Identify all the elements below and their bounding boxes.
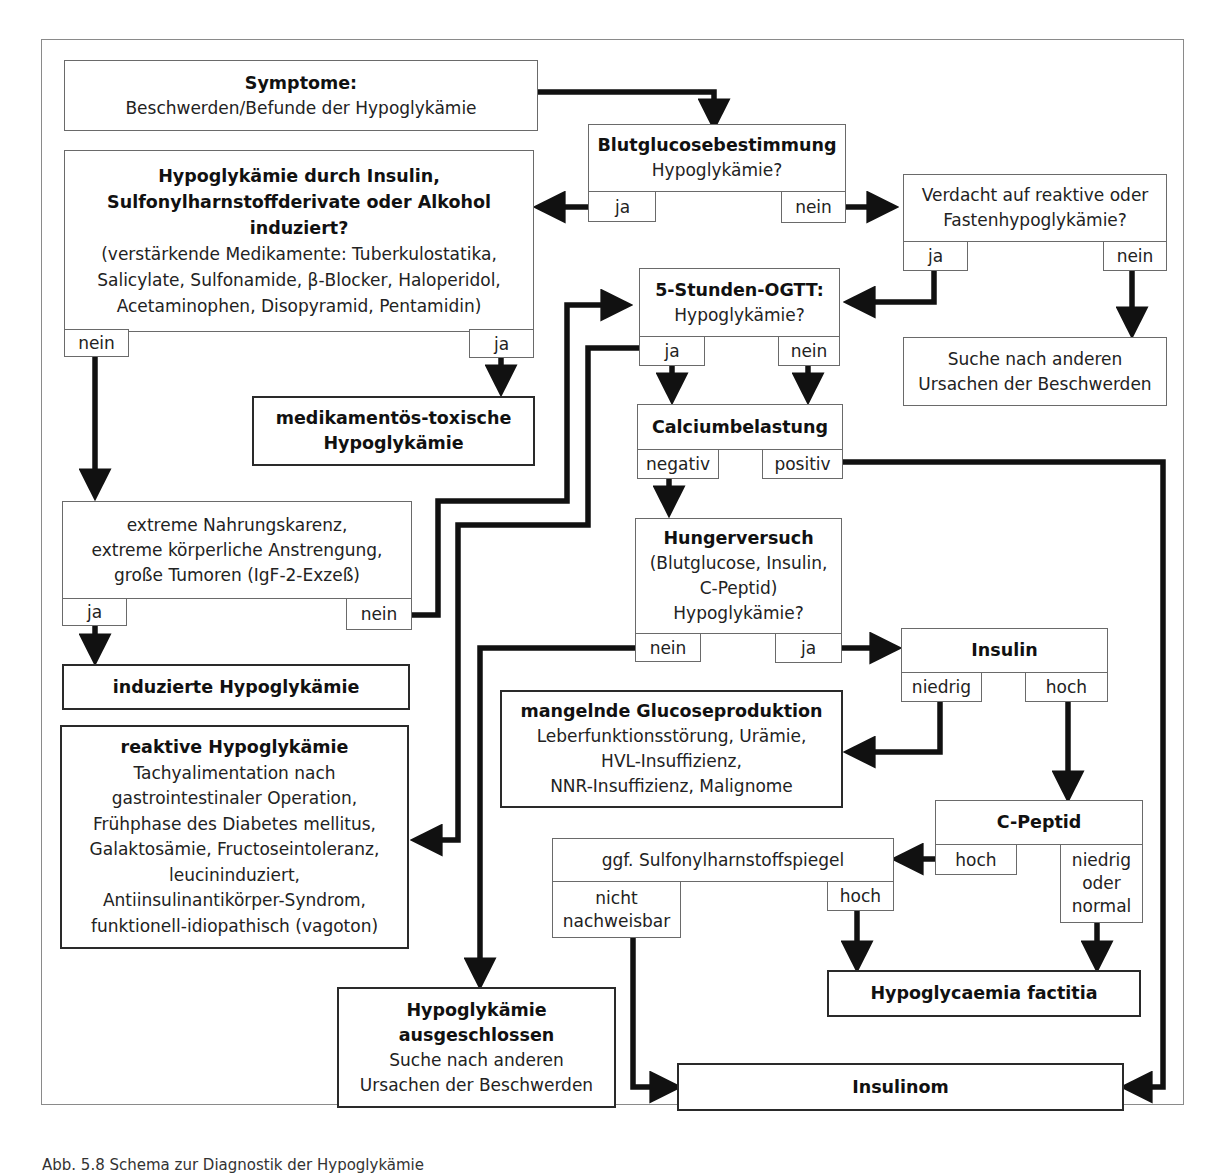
node-title: 5-Stunden-OGTT: — [655, 278, 824, 303]
node-ogtt: 5-Stunden-OGTT: Hypoglykämie? — [639, 268, 840, 337]
node-hypoglykaemie-ausgeschlossen: Hypoglykämie ausgeschlossen Suche nach a… — [337, 987, 616, 1108]
node-mangelnde-glucoseproduktion: mangelnde Glucoseproduktion Leberfunktio… — [500, 690, 843, 808]
node-title-line: Sulfonylharnstoffderivate oder Alkohol — [107, 189, 491, 215]
node-text-line: extreme körperliche Anstrengung, — [92, 538, 383, 563]
node-title-line: Hypoglykämie — [406, 998, 546, 1023]
label-verdacht-ja: ja — [903, 241, 968, 271]
node-text-line: Frühphase des Diabetes mellitus, — [93, 812, 376, 838]
label-extrem-ja: ja — [62, 598, 127, 626]
node-induziert: Hypoglykämie durch Insulin, Sulfonylharn… — [64, 150, 534, 332]
node-extreme-ursachen: extreme Nahrungskarenz, extreme körperli… — [62, 501, 412, 599]
node-reaktive-hypoglykaemie: reaktive Hypoglykämie Tachyalimentation … — [60, 725, 409, 949]
node-text-line: gastrointestinaler Operation, — [112, 786, 357, 812]
node-c-peptid: C-Peptid — [935, 800, 1143, 845]
node-text-line: HVL-Insuffizienz, — [601, 749, 742, 774]
label-verdacht-nein: nein — [1103, 241, 1167, 271]
node-text-line: funktionell-idiopathisch (vagoton) — [91, 914, 378, 940]
label-induziert-nein: nein — [64, 329, 129, 357]
node-text-line: Ursachen der Beschwerden — [918, 372, 1151, 397]
label-hunger-nein: nein — [635, 633, 701, 662]
node-title-line: induziert? — [250, 215, 349, 241]
node-text-line: Leberfunktionsstörung, Urämie, — [537, 724, 807, 749]
node-verdacht: Verdacht auf reaktive oder Fastenhypogly… — [903, 174, 1167, 242]
node-title: C-Peptid — [997, 810, 1082, 835]
label-sulfonyl-nicht-nachweisbar: nicht nachweisbar — [552, 881, 681, 938]
node-title-line: Hypoglykämie — [323, 431, 463, 456]
label-line: nicht — [595, 887, 637, 910]
node-text-line: Fastenhypoglykämie? — [943, 208, 1127, 233]
node-text-line: Hypoglykämie? — [673, 601, 803, 626]
node-calciumbelastung: Calciumbelastung — [637, 404, 843, 450]
node-text-line: NNR-Insuffizienz, Malignome — [550, 774, 793, 799]
label-cpeptid-niedrig-normal: niedrig oder normal — [1060, 844, 1143, 923]
node-hungerversuch: Hungerversuch (Blutglucose, Insulin, C-P… — [635, 518, 842, 634]
node-text-line: Antiinsulinantikörper-Syndrom, — [103, 888, 366, 914]
label-sulfonyl-hoch: hoch — [827, 881, 894, 911]
node-text-line: leucininduziert, — [169, 863, 300, 889]
label-cpeptid-hoch: hoch — [935, 844, 1017, 875]
node-title: Insulinom — [852, 1075, 949, 1100]
figure-caption: Abb. 5.8 Schema zur Diagnostik der Hypog… — [42, 1156, 424, 1174]
node-insulin: Insulin — [901, 628, 1108, 673]
node-text: Beschwerden/Befunde der Hypoglykämie — [125, 96, 476, 121]
node-text-line: Tachyalimentation nach — [133, 761, 335, 787]
label-line: nachweisbar — [563, 910, 670, 933]
node-text-line: Suche nach anderen — [389, 1048, 564, 1073]
node-text-line: (Blutglucose, Insulin, — [650, 551, 828, 576]
node-title-line: Hypoglykämie durch Insulin, — [158, 163, 440, 189]
node-text: Hypoglykämie? — [674, 303, 804, 328]
label-ogtt-nein: nein — [778, 336, 840, 366]
label-induziert-ja: ja — [469, 329, 534, 358]
node-text: ggf. Sulfonylharnstoffspiegel — [602, 848, 844, 873]
node-medikamentoes-toxisch: medikamentös-toxische Hypoglykämie — [252, 396, 535, 466]
node-title-line: medikamentös-toxische — [276, 406, 512, 431]
node-text-line: Galaktosämie, Fructoseintoleranz, — [90, 837, 380, 863]
node-text-line: C-Peptid) — [700, 576, 778, 601]
node-hypoglycaemia-factitia: Hypoglycaemia factitia — [827, 970, 1141, 1017]
label-calcium-positiv: positiv — [762, 449, 843, 479]
label-extrem-nein: nein — [346, 598, 412, 630]
label-blutglucose-ja: ja — [588, 191, 656, 222]
node-sulfonylharnstoffspiegel: ggf. Sulfonylharnstoffspiegel — [552, 838, 894, 882]
arrow-insulin-niedrig — [858, 702, 940, 752]
node-induzierte-hypoglykaemie: induzierte Hypoglykämie — [62, 664, 410, 710]
label-insulin-niedrig: niedrig — [901, 672, 982, 702]
node-symptome: Symptome: Beschwerden/Befunde der Hypogl… — [64, 60, 538, 131]
node-insulinom: Insulinom — [677, 1063, 1124, 1111]
arrow-sulfonyl-nicht-to-insulinom — [633, 937, 667, 1087]
node-title: Insulin — [971, 638, 1037, 663]
node-title: induzierte Hypoglykämie — [113, 675, 360, 700]
node-title: Hypoglycaemia factitia — [870, 981, 1097, 1006]
node-title: reaktive Hypoglykämie — [121, 735, 349, 761]
node-title-line: ausgeschlossen — [399, 1023, 555, 1048]
node-title: mangelnde Glucoseproduktion — [521, 699, 823, 724]
label-insulin-hoch: hoch — [1025, 672, 1108, 702]
node-suche-andere-ursachen: Suche nach anderen Ursachen der Beschwer… — [903, 337, 1167, 406]
node-title: Hungerversuch — [663, 526, 813, 551]
node-text-line: Acetaminophen, Disopyramid, Pentamidin) — [117, 293, 482, 319]
node-text-line: Ursachen der Beschwerden — [360, 1073, 593, 1098]
node-text-line: extreme Nahrungskarenz, — [127, 513, 348, 538]
label-line: oder — [1082, 872, 1121, 895]
label-ogtt-ja: ja — [639, 336, 705, 366]
label-line: niedrig — [1072, 849, 1131, 872]
node-text-line: (verstärkende Medikamente: Tuberkulostat… — [101, 241, 497, 267]
arrow-verdacht-ja — [858, 270, 934, 302]
node-text-line: Suche nach anderen — [948, 347, 1123, 372]
node-blutglucose: Blutglucosebestimmung Hypoglykämie? — [588, 124, 846, 192]
node-text: Hypoglykämie? — [652, 158, 782, 183]
arrow-symptome-to-blutglucose — [537, 92, 714, 116]
label-calcium-negativ: negativ — [637, 449, 719, 479]
node-title: Blutglucosebestimmung — [598, 133, 837, 158]
node-text-line: Verdacht auf reaktive oder — [922, 183, 1149, 208]
label-blutglucose-nein: nein — [781, 191, 846, 223]
node-title: Symptome: — [245, 71, 357, 96]
label-hunger-ja: ja — [775, 633, 842, 663]
label-line: normal — [1072, 895, 1132, 918]
node-text-line: Salicylate, Sulfonamide, β-Blocker, Halo… — [97, 267, 501, 293]
node-text-line: große Tumoren (IgF-2-Exzeß) — [114, 563, 360, 588]
node-title: Calciumbelastung — [652, 415, 828, 440]
